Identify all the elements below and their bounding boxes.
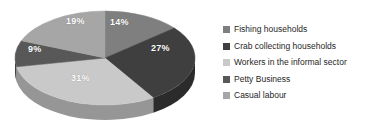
legend-item[interactable]: Crab collecting households — [223, 41, 371, 52]
legend-item-label: Casual labour — [234, 90, 286, 101]
legend-item[interactable]: Casual labour — [223, 90, 371, 101]
square-swatch-icon — [223, 76, 230, 83]
legend-item-label: Workers in the informal sector — [234, 57, 347, 68]
legend-item[interactable]: Fishing households — [223, 24, 371, 35]
legend-item-label: Petty Business — [234, 74, 290, 85]
pie-plot-area: 14% 27% 31% 9% 19% — [0, 0, 215, 128]
legend-item-label: Fishing households — [234, 24, 307, 35]
legend-item[interactable]: Workers in the informal sector — [223, 57, 371, 68]
legend-item-label: Crab collecting households — [234, 41, 336, 52]
pie-svg — [0, 0, 215, 128]
square-swatch-icon — [223, 92, 230, 99]
chart-legend: Fishing householdsCrab collecting househ… — [223, 24, 371, 101]
legend-item[interactable]: Petty Business — [223, 74, 371, 85]
square-swatch-icon — [223, 59, 230, 66]
pie-chart: 14% 27% 31% 9% 19% Fishing householdsCra… — [0, 0, 371, 128]
pie-slice-tops — [15, 11, 195, 105]
square-swatch-icon — [223, 26, 230, 33]
square-swatch-icon — [223, 43, 230, 50]
